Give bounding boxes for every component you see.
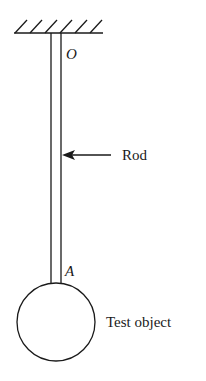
test-object-label: Test object — [106, 314, 172, 330]
attachment-label-a: A — [64, 263, 75, 279]
ceiling-hatch — [15, 20, 102, 33]
pendulum-rod-diagram: O Rod A Test object — [0, 0, 206, 381]
rod-pointer-arrow — [62, 150, 111, 160]
test-object-circle — [17, 283, 95, 361]
ceiling-support — [14, 20, 103, 33]
rod — [51, 33, 61, 283]
pivot-label-o: O — [66, 46, 77, 62]
rod-label: Rod — [122, 147, 148, 163]
